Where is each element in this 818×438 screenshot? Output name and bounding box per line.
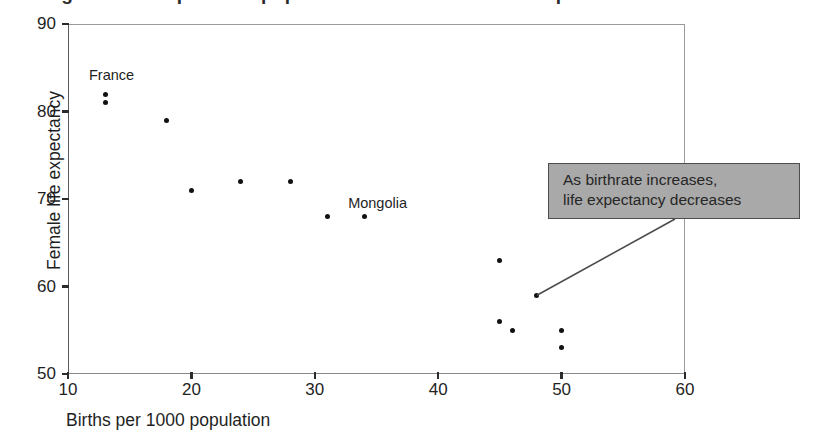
scatter-chart-figure: Figure: Births per 1000 population versu…	[0, 0, 818, 438]
point-label: France	[89, 67, 134, 83]
x-tick-mark	[67, 372, 70, 379]
data-point	[288, 179, 293, 184]
x-tick-label: 20	[167, 381, 215, 398]
x-tick-mark	[437, 372, 440, 379]
data-point	[325, 214, 330, 219]
x-tick-label: 10	[44, 381, 92, 398]
annotation-callout: As birthrate increases, life expectancy …	[548, 163, 800, 219]
data-point	[103, 92, 108, 97]
point-label: Mongolia	[348, 195, 407, 211]
chart-title-cropped: Figure: Births per 1000 population versu…	[44, 0, 564, 7]
y-tick-mark	[62, 23, 69, 26]
y-axis-title: Female life expectancy	[44, 31, 65, 331]
x-tick-label: 40	[414, 381, 462, 398]
x-tick-mark	[314, 372, 317, 379]
data-point	[164, 118, 169, 123]
annotation-line-2: life expectancy decreases	[563, 190, 799, 210]
data-point	[189, 188, 194, 193]
data-point	[103, 100, 108, 105]
annotation-line-1: As birthrate increases,	[563, 170, 799, 190]
data-point	[559, 328, 564, 333]
y-tick-label: 50	[16, 365, 56, 382]
data-point	[362, 214, 367, 219]
x-tick-label: 60	[661, 381, 709, 398]
x-tick-mark	[560, 372, 563, 379]
x-tick-label: 50	[538, 381, 586, 398]
x-tick-label: 30	[291, 381, 339, 398]
x-axis-title: Births per 1000 population	[66, 410, 270, 431]
x-tick-mark	[684, 372, 687, 379]
x-tick-mark	[190, 372, 193, 379]
data-point	[510, 328, 515, 333]
y-tick-label: 90	[16, 15, 56, 32]
